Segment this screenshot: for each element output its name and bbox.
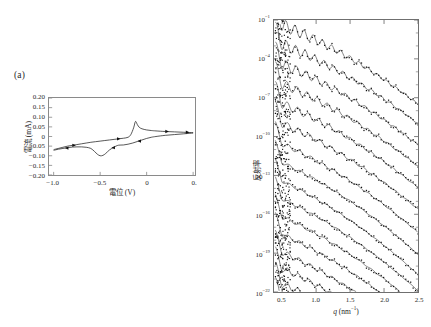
panel-b-y-tick-label: 10−13 bbox=[256, 171, 270, 180]
panel-a-y-tick-label: −0.20 bbox=[29, 172, 45, 180]
panel-b-plot-area bbox=[273, 19, 419, 293]
panel-a-curves bbox=[49, 98, 195, 175]
reflectivity-curve bbox=[275, 168, 418, 291]
panel-a-x-tick-label: −0.5 bbox=[93, 179, 106, 187]
panel-a-x-tick-label: 0 bbox=[145, 179, 149, 187]
reflectivity-curve bbox=[275, 142, 418, 275]
reflectivity-curve bbox=[275, 184, 400, 291]
panel-b: (b) 反射率 q (nm−1) 10−110−410−710−1010−131… bbox=[215, 0, 431, 327]
panel-a-y-tick-label: 0.10 bbox=[33, 113, 45, 121]
panel-a-cv-trace bbox=[54, 133, 193, 156]
scan-direction-arrow bbox=[72, 144, 76, 147]
panel-b-y-tick-label: 10−10 bbox=[256, 132, 270, 141]
panel-a-y-tick-label: −0.10 bbox=[29, 152, 45, 160]
panel-b-x-tick-label: 2.5 bbox=[415, 296, 424, 304]
panel-b-curves bbox=[274, 20, 418, 292]
scan-direction-arrow bbox=[111, 146, 115, 149]
panel-a-y-tick-label: −0.05 bbox=[29, 142, 45, 150]
reflectivity-curve bbox=[277, 20, 418, 105]
panel-b-y-tick-label: 10−16 bbox=[256, 210, 270, 219]
scan-direction-arrow bbox=[137, 139, 141, 142]
panel-b-y-tick-label: 10−7 bbox=[258, 93, 270, 102]
reflectivity-curve bbox=[275, 270, 289, 292]
panel-b-x-tick-label: 1.5 bbox=[346, 296, 355, 304]
reflectivity-curve bbox=[275, 32, 418, 145]
panel-a-x-tick-label: 0. bbox=[191, 179, 196, 187]
panel-a-y-tick-label: −0.15 bbox=[29, 162, 45, 170]
panel-a-plot-area bbox=[48, 97, 196, 176]
panel-b-x-symbol: q bbox=[333, 307, 337, 316]
panel-b-x-tick-label: 1.0 bbox=[311, 296, 320, 304]
reflectivity-curve bbox=[275, 88, 418, 208]
reflectivity-curve bbox=[275, 216, 356, 292]
panel-a-x-tick-label: −1.0 bbox=[46, 179, 59, 187]
panel-b-y-tick-label: 10−1 bbox=[258, 14, 270, 23]
scan-direction-arrow bbox=[117, 137, 121, 140]
scan-direction-arrow bbox=[165, 130, 169, 133]
panel-a-y-tick-label: 0.20 bbox=[33, 93, 45, 101]
panel-b-x-tick-label: 0.5 bbox=[277, 296, 286, 304]
panel-a-y-tick-label: 0.15 bbox=[33, 103, 45, 111]
figure-root: (a) 電流 (mA) 電位 (V) 0.200.150.100.050−0.0… bbox=[0, 0, 431, 327]
panel-a-tag: (a) bbox=[14, 70, 25, 80]
panel-b-y-tick-label: 10−4 bbox=[258, 53, 270, 62]
panel-a-y-tick-label: 0 bbox=[42, 133, 46, 141]
panel-a-y-tick-label: 0.05 bbox=[33, 123, 45, 131]
reflectivity-curve bbox=[275, 22, 418, 125]
panel-b-y-tick-label: 10−19 bbox=[256, 249, 270, 258]
panel-b-x-tick-label: 2.0 bbox=[380, 296, 389, 304]
panel-b-x-axis-label: q (nm−1) bbox=[333, 305, 359, 316]
panel-a-x-axis-label: 電位 (V) bbox=[109, 186, 135, 197]
panel-b-y-tick-label: 10−22 bbox=[256, 288, 270, 297]
panel-a: (a) 電流 (mA) 電位 (V) 0.200.150.100.050−0.0… bbox=[0, 0, 215, 327]
